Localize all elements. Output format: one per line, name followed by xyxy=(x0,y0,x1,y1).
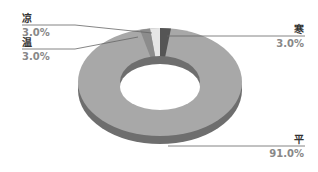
label-ping-percent: 91.0% xyxy=(269,148,304,159)
label-wen-name: 温 xyxy=(22,37,32,48)
donut-chart xyxy=(0,0,318,172)
label-liang-name: 凉 xyxy=(22,13,32,24)
label-wen-percent: 3.0% xyxy=(22,51,50,62)
label-han-percent: 3.0% xyxy=(276,38,304,49)
label-ping-name: 平 xyxy=(294,134,304,145)
label-han-name: 寒 xyxy=(294,24,304,35)
donut-top xyxy=(78,28,242,136)
